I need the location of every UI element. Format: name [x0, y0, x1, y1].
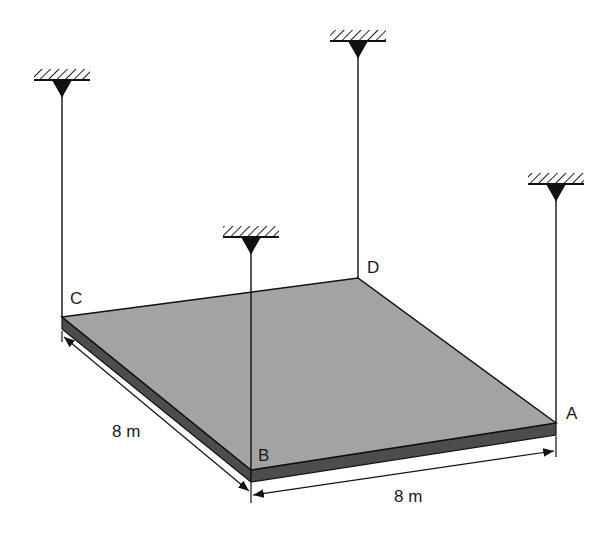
support-C [34, 69, 90, 98]
support-B [223, 226, 279, 255]
plate-diagram [0, 0, 611, 539]
point-label-d: D [367, 259, 379, 276]
support-D [330, 30, 386, 59]
pin-support-icon [52, 80, 72, 98]
ceiling-hatch [528, 173, 584, 184]
dimension-label-cb: 8 m [112, 423, 140, 440]
plate [62, 278, 556, 482]
point-label-a: A [566, 405, 577, 422]
dimension-label-ba: 8 m [394, 488, 422, 505]
pin-support-icon [348, 41, 368, 59]
pin-support-icon [241, 237, 261, 255]
ceiling-hatch [223, 226, 279, 237]
ceiling-hatch [34, 69, 90, 80]
supports [34, 30, 584, 255]
ceiling-hatch [330, 30, 386, 41]
support-A [528, 173, 584, 202]
pin-support-icon [546, 184, 566, 202]
point-label-c: C [70, 290, 82, 307]
point-label-b: B [258, 447, 269, 464]
